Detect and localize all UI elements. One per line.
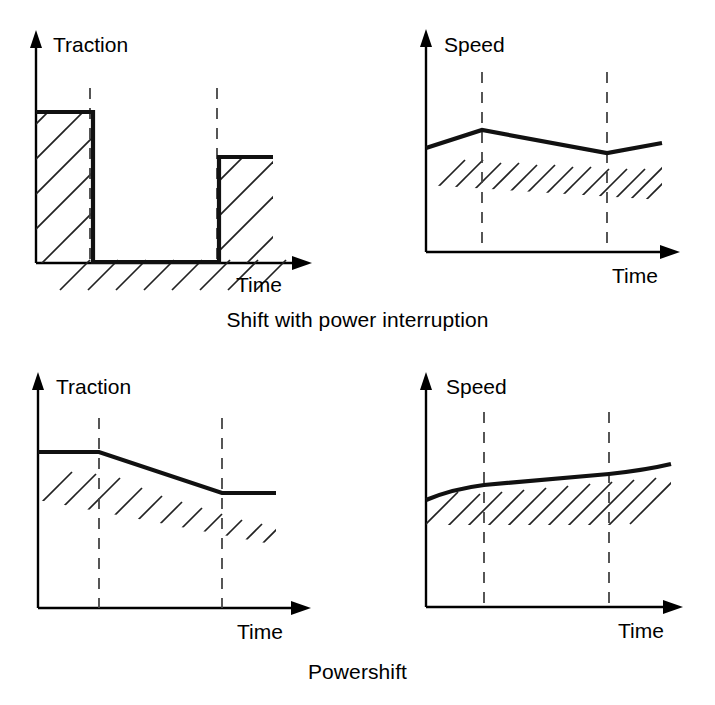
- x-axis-label-time-bl: Time: [237, 620, 283, 643]
- y-axis-label-speed-br: Speed: [446, 375, 507, 398]
- speed-curve-br: [426, 464, 671, 500]
- caption-shift-with-power-interruption: Shift with power interruption: [0, 308, 715, 332]
- y-axis-label-traction-tl: Traction: [53, 33, 128, 56]
- chart-speed-shift-with-power-interruption: Speed Time: [390, 0, 715, 310]
- powershift-comparison-figure: Traction Time: [0, 0, 715, 705]
- traction-step-curve-tl: [36, 112, 273, 262]
- x-axis-time-tr: [426, 245, 680, 259]
- chart-traction-powershift: Traction Time: [0, 350, 360, 660]
- y-axis-speed-tr: [420, 29, 432, 252]
- x-axis-label-time-tr: Time: [612, 264, 658, 287]
- shift-marker-lines-br: [484, 412, 609, 607]
- x-axis-label-time-br: Time: [618, 619, 664, 642]
- hatching-speed-tr: [420, 160, 681, 214]
- caption-powershift: Powershift: [0, 660, 715, 684]
- shift-marker-lines-tr: [482, 72, 607, 252]
- shift-marker-lines-tl: [90, 88, 217, 263]
- x-axis-label-time-tl: Time: [236, 273, 282, 296]
- x-axis-time-br: [426, 600, 683, 614]
- speed-curve-tr: [426, 130, 662, 153]
- chart-speed-powershift: Speed Time: [390, 350, 715, 660]
- hatching-speed-br: [410, 476, 678, 542]
- hatching-traction-bl: [24, 472, 302, 572]
- y-axis-label-traction-bl: Traction: [56, 375, 131, 398]
- y-axis-label-speed-tr: Speed: [444, 33, 505, 56]
- chart-traction-shift-with-power-interruption: Traction Time: [0, 0, 360, 310]
- traction-curve-bl: [38, 452, 276, 493]
- y-axis-traction-bl: [32, 372, 44, 608]
- x-axis-time-bl: [38, 601, 311, 615]
- y-axis-speed-br: [420, 372, 432, 607]
